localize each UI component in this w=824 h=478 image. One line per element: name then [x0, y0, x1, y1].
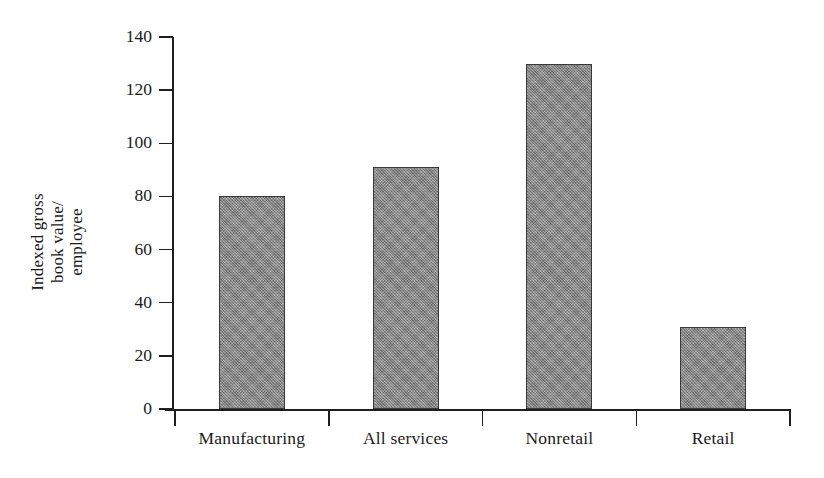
bar — [526, 64, 592, 409]
bar — [219, 196, 285, 409]
y-axis-tick — [159, 302, 173, 304]
y-axis-tick-label: 40 — [104, 294, 152, 312]
x-axis-category-label: All services — [329, 428, 483, 448]
y-axis-tick — [159, 196, 173, 198]
y-axis-tick-label: 100 — [104, 134, 152, 152]
y-axis-tick-label: 60 — [104, 241, 152, 259]
y-axis-tick — [159, 36, 173, 38]
y-axis-tick — [159, 355, 173, 357]
y-axis-title-line-2: book value/ — [48, 127, 68, 357]
y-axis-tick-label: 80 — [104, 187, 152, 205]
x-axis-tick — [789, 411, 791, 426]
x-axis-line — [165, 409, 791, 411]
y-axis-tick-label: 140 — [104, 28, 152, 46]
y-axis-tick-label: 20 — [104, 347, 152, 365]
x-axis-tick — [174, 411, 176, 426]
bar — [680, 327, 746, 409]
x-axis-category-label: Manufacturing — [175, 428, 329, 448]
x-axis-tick — [328, 411, 330, 426]
y-axis-tick — [159, 143, 173, 145]
bar — [373, 167, 439, 409]
y-axis-title-line-1: Indexed gross — [28, 127, 48, 357]
y-axis-tick-label: 120 — [104, 81, 152, 99]
y-axis-tick — [159, 89, 173, 91]
y-axis-tick-label: 0 — [104, 400, 152, 418]
x-axis-tick — [482, 411, 484, 426]
x-axis-category-label: Nonretail — [483, 428, 637, 448]
y-axis-title: Indexed gross book value/ employee — [28, 127, 88, 357]
y-axis-tick — [159, 249, 173, 251]
x-axis-tick — [636, 411, 638, 426]
y-axis-tick — [159, 408, 173, 410]
bar-chart: Indexed gross book value/ employee 02040… — [0, 0, 824, 478]
x-axis-category-label: Retail — [636, 428, 790, 448]
y-axis-title-line-3: employee — [67, 127, 87, 357]
